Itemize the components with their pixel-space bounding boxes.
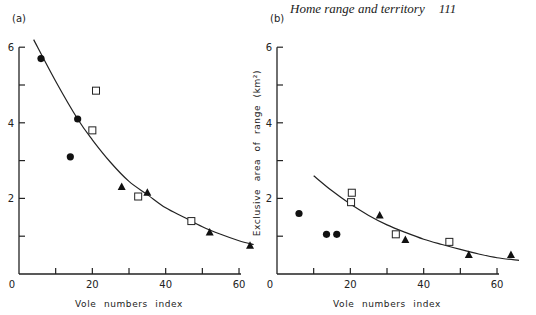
data-point-triangle — [118, 183, 126, 191]
y-tick-label: 6 — [266, 42, 272, 53]
y-tick-label: 2 — [8, 193, 14, 204]
data-point-triangle — [401, 235, 409, 243]
x-tick-label: 20 — [344, 279, 357, 290]
data-point-circle — [295, 210, 302, 217]
x-axis-label: Vole numbers index — [75, 299, 183, 309]
data-point-circle — [323, 231, 330, 238]
y-tick-label: 4 — [266, 118, 272, 129]
x-tick-label: 40 — [417, 279, 430, 290]
chart-panel-a: (a)2460204060Vole numbers index — [8, 13, 254, 309]
figure-home-range-vs-vole-index: (a)2460204060Vole numbers index(b)246020… — [0, 0, 536, 315]
data-point-square — [188, 218, 195, 225]
x-tick-label: 40 — [159, 279, 172, 290]
data-point-square — [348, 189, 355, 196]
data-point-circle — [333, 231, 340, 238]
fitted-curve — [314, 176, 519, 261]
x-tick-label: 0 — [267, 279, 273, 290]
x-tick-label: 60 — [491, 279, 504, 290]
data-point-square — [135, 193, 142, 200]
y-tick-label: 4 — [8, 118, 14, 129]
data-point-square — [89, 127, 96, 134]
x-tick-label: 0 — [9, 279, 15, 290]
data-point-circle — [74, 115, 81, 122]
data-point-square — [392, 231, 399, 238]
data-point-circle — [67, 153, 74, 160]
fitted-curve — [34, 40, 254, 245]
y-tick-label: 2 — [266, 193, 272, 204]
x-tick-label: 20 — [86, 279, 99, 290]
x-tick-label: 60 — [233, 279, 246, 290]
y-tick-label: 6 — [8, 42, 14, 53]
data-point-triangle — [507, 251, 515, 259]
panel-label: (a) — [12, 13, 26, 24]
x-axis-label: Vole numbers index — [333, 299, 441, 309]
data-point-circle — [37, 55, 44, 62]
panel-label: (b) — [270, 13, 284, 24]
chart-panel-b: (b)2460204060Vole numbers indexExclusive… — [252, 13, 519, 309]
y-axis-label: Exclusive area of range (km²) — [252, 70, 262, 236]
data-point-square — [446, 238, 453, 245]
data-point-square — [348, 199, 355, 206]
data-point-triangle — [376, 211, 384, 219]
data-point-square — [93, 87, 100, 94]
